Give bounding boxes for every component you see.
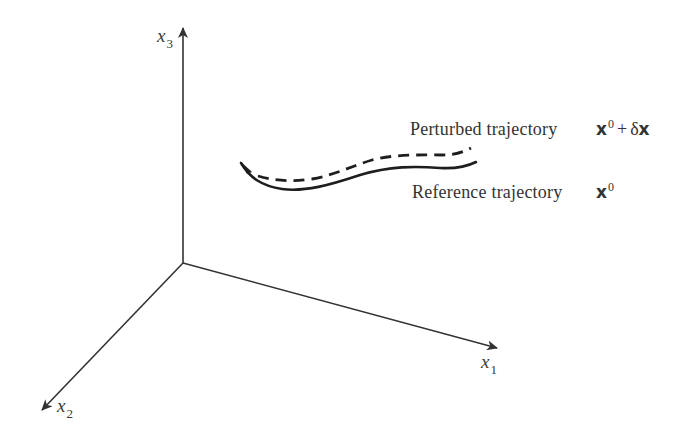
x1-label-var: x <box>481 351 489 372</box>
x2-axis-label: x2 <box>57 396 73 415</box>
x1-axis <box>183 263 497 348</box>
perturbed-symbol-base: x <box>596 119 607 139</box>
trajectory-start-tip <box>240 161 252 174</box>
x2-label-var: x <box>57 395 65 416</box>
perturbed-trajectory-curve <box>258 148 471 181</box>
perturbed-symbol-delta: δ <box>630 119 638 139</box>
perturbed-symbol-sup: 0 <box>608 117 614 131</box>
x2-label-sub: 2 <box>66 406 73 421</box>
x3-label-sub: 3 <box>166 36 173 51</box>
x1-label-sub: 1 <box>490 362 497 377</box>
reference-symbol-sup: 0 <box>608 180 614 194</box>
x3-axis-label: x3 <box>157 26 173 45</box>
perturbed-symbol-var: x <box>639 119 650 139</box>
reference-symbol-base: x <box>596 182 607 202</box>
perturbed-trajectory-symbol: x0+δx <box>596 120 650 138</box>
perturbed-trajectory-label: Perturbed trajectory <box>410 120 557 138</box>
x3-label-var: x <box>157 25 165 46</box>
x1-axis-label: x1 <box>481 352 497 371</box>
perturbed-symbol-op: + <box>617 119 627 139</box>
trajectory-diagram <box>0 0 692 437</box>
reference-trajectory-symbol: x0 <box>596 183 614 201</box>
x2-axis <box>42 263 183 410</box>
reference-trajectory-label: Reference trajectory <box>412 183 562 201</box>
